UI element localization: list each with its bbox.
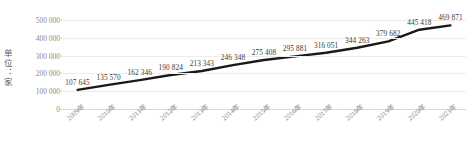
y-axis-tick-label: 200 000 — [12, 69, 60, 78]
data-point-label: 344 263 — [345, 36, 369, 45]
series-line — [62, 20, 466, 109]
data-point-label: 246 348 — [221, 53, 245, 62]
y-axis-tick-label: 300 000 — [12, 51, 60, 60]
data-point-label: 275 408 — [252, 48, 276, 57]
gridline — [62, 73, 466, 74]
data-point-label: 213 343 — [190, 59, 214, 68]
data-point-label: 107 645 — [65, 78, 89, 87]
data-point-label: 316 051 — [314, 41, 338, 50]
y-axis-tick-label: 0 — [12, 105, 60, 114]
data-point-label: 162 346 — [127, 68, 151, 77]
gridline — [62, 38, 466, 39]
data-point-label: 469 871 — [438, 13, 462, 22]
plot-area — [62, 20, 466, 109]
y-axis-tick-label: 500 000 — [12, 16, 60, 25]
data-point-label: 379 682 — [376, 29, 400, 38]
line-chart: 单位：家 0100 000200 000300 000400 000500 00… — [0, 0, 476, 153]
data-point-label: 445 418 — [407, 18, 431, 27]
data-point-label: 190 824 — [159, 63, 183, 72]
data-point-label: 295 881 — [283, 44, 307, 53]
y-axis-tick-label: 400 000 — [12, 33, 60, 42]
data-point-label: 135 570 — [96, 73, 120, 82]
gridline — [62, 91, 466, 92]
y-axis-tick-label: 100 000 — [12, 87, 60, 96]
gridline — [62, 20, 466, 21]
